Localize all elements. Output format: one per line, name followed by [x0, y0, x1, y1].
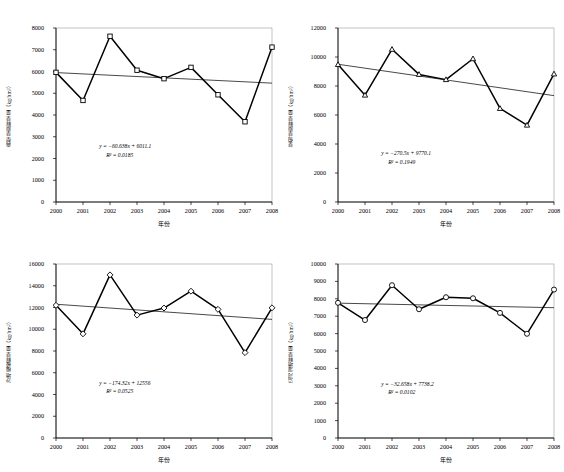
x-tick-label: 2002 — [104, 208, 116, 214]
trendline-r2: R² = 0.0185 — [99, 151, 151, 160]
trendline-annotation: y = −270.5x + 9770.1R² = 0.1949 — [381, 149, 431, 166]
trendline-r2: R² = 0.0525 — [99, 387, 150, 396]
x-tick-label: 2000 — [50, 444, 62, 450]
trendline-annotation: y = −174.32x + 12556R² = 0.0525 — [99, 379, 150, 396]
x-tick-label: 2003 — [413, 444, 425, 450]
x-tick-label: 2003 — [131, 208, 143, 214]
x-tick-label: 2006 — [212, 208, 224, 214]
trendline-equation: y = −60.638x + 6011.1 — [99, 142, 151, 151]
x-tick-label: 2001 — [359, 208, 371, 214]
trendline-annotation: y = −60.638x + 6011.1R² = 0.0185 — [99, 142, 151, 159]
x-tick-label: 2000 — [332, 444, 344, 450]
trendline-equation: y = −32.658x + 7738.2 — [381, 380, 434, 389]
trendline-r2: R² = 0.1949 — [381, 158, 431, 167]
x-tick-label: 2002 — [386, 208, 398, 214]
x-tick-label: 2004 — [440, 208, 452, 214]
x-tick-label: 2004 — [158, 208, 170, 214]
x-tick-label: 2001 — [77, 444, 89, 450]
plot-area: 典型草原鲜草量（kg/hm²）0100020003000400050006000… — [0, 0, 282, 236]
x-tick-label: 2005 — [467, 444, 479, 450]
x-tick-label: 2004 — [440, 444, 452, 450]
x-tick-label: 2000 — [332, 208, 344, 214]
trendline-annotation: y = −32.658x + 7738.2R² = 0.0102 — [381, 380, 434, 397]
chart-panel-meadow-steppe: 草甸草原鲜草量（kg/hm²）0200040006000800010000120… — [282, 0, 564, 236]
x-tick-label: 2006 — [494, 444, 506, 450]
plot-canvas — [282, 236, 564, 472]
x-tick-label: 2008 — [548, 208, 560, 214]
x-tick-label: 2002 — [386, 444, 398, 450]
x-tick-label: 2002 — [104, 444, 116, 450]
plot-area: 草甸草原鲜草量（kg/hm²）0200040006000800010000120… — [282, 0, 564, 236]
x-tick-label: 2001 — [359, 444, 371, 450]
x-tick-label: 2000 — [50, 208, 62, 214]
x-tick-label: 2005 — [467, 208, 479, 214]
x-axis-label: 年份 — [158, 457, 170, 463]
plot-area: 沙地植被鲜草量（kg/hm²）0200040006000800010000120… — [0, 236, 282, 472]
x-tick-label: 2005 — [185, 444, 197, 450]
plot-canvas — [0, 0, 282, 236]
x-tick-label: 2001 — [77, 208, 89, 214]
x-tick-label: 2007 — [239, 208, 251, 214]
x-tick-label: 2007 — [239, 444, 251, 450]
x-tick-label: 2006 — [494, 208, 506, 214]
plot-canvas — [0, 236, 282, 472]
x-tick-label: 2004 — [158, 444, 170, 450]
chart-panel-typical-steppe: 典型草原鲜草量（kg/hm²）0100020003000400050006000… — [0, 0, 282, 236]
x-tick-label: 2006 — [212, 444, 224, 450]
x-tick-label: 2008 — [548, 444, 560, 450]
x-tick-label: 2008 — [266, 444, 278, 450]
x-tick-label: 2003 — [413, 208, 425, 214]
chart-panel-sandy-land: 沙地植被鲜草量（kg/hm²）0200040006000800010000120… — [0, 236, 282, 472]
x-tick-label: 2007 — [521, 444, 533, 450]
x-axis-label: 年份 — [440, 457, 452, 463]
x-tick-label: 2007 — [521, 208, 533, 214]
x-tick-label: 2008 — [266, 208, 278, 214]
x-axis-label: 年份 — [440, 221, 452, 227]
x-axis-label: 年份 — [158, 221, 170, 227]
plot-canvas — [282, 0, 564, 236]
figure-sheet: 典型草原鲜草量（kg/hm²）0100020003000400050006000… — [0, 0, 564, 472]
chart-panel-riverside-wetland: 沿河湿地鲜草量（kg/hm²）0100020003000400050006000… — [282, 236, 564, 472]
trendline-r2: R² = 0.0102 — [381, 388, 434, 397]
trendline-equation: y = −270.5x + 9770.1 — [381, 149, 431, 158]
trendline-equation: y = −174.32x + 12556 — [99, 379, 150, 388]
plot-area: 沿河湿地鲜草量（kg/hm²）0100020003000400050006000… — [282, 236, 564, 472]
x-tick-label: 2005 — [185, 208, 197, 214]
x-tick-label: 2003 — [131, 444, 143, 450]
